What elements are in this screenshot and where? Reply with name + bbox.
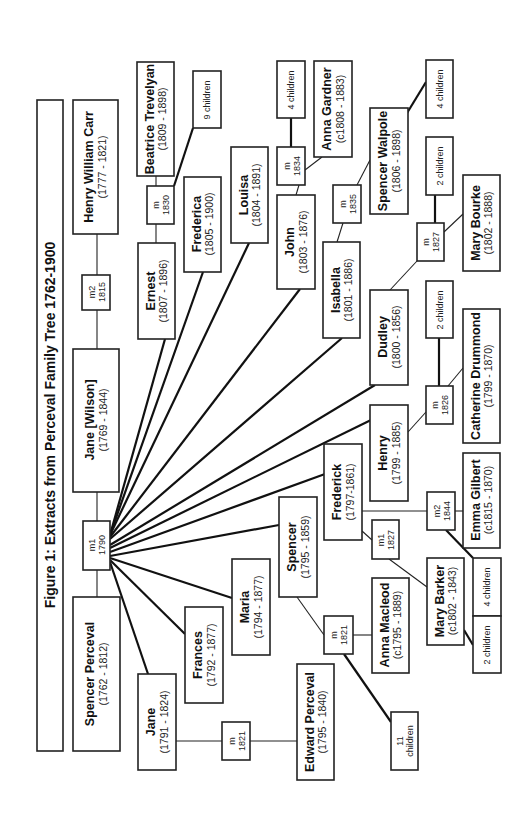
svg-text:m2: m2 <box>432 505 442 518</box>
person-spencer: Spencer (1795 - 1859) <box>279 497 317 597</box>
svg-text:(1795 - 1859): (1795 - 1859) <box>299 515 311 578</box>
svg-text:2 children: 2 children <box>435 146 445 185</box>
person-mary-bourke: Mary Bourke (1802 - 1888) <box>463 175 500 271</box>
person-frederica: Frederica (1805 - 1900) <box>184 177 221 272</box>
svg-text:(c1808 - 1883): (c1808 - 1883) <box>334 75 346 143</box>
figure-title: Figure 1: Extracts from Perceval Family … <box>37 100 63 751</box>
svg-text:(1799 - 1885): (1799 - 1885) <box>390 421 402 484</box>
svg-text:Jane [Wilson]: Jane [Wilson] <box>83 379 97 460</box>
person-catherine-drummond: Catherine Drummond (1799 - 1870) <box>463 309 500 443</box>
svg-text:Ernest: Ernest <box>144 271 158 311</box>
svg-text:(1794 - 1877): (1794 - 1877) <box>252 575 264 638</box>
svg-text:(1792 - 1877): (1792 - 1877) <box>205 623 217 686</box>
marriage-m1-1827: m1 1827 <box>372 520 399 559</box>
person-emma-gilbert: Emma Gilbert (c1815 - 1870) <box>463 453 500 548</box>
person-anna-macleod: Anna Macleod (c1795 - 1889) <box>372 578 409 673</box>
svg-text:children: children <box>405 725 415 757</box>
svg-text:Jane: Jane <box>144 708 158 737</box>
svg-text:m: m <box>430 401 440 409</box>
person-maria: Maria (1794 - 1877) <box>232 559 270 655</box>
svg-text:(1800 - 1856): (1800 - 1856) <box>390 305 402 368</box>
svg-text:Henry William Carr: Henry William Carr <box>82 111 96 223</box>
svg-text:Catherine Drummond: Catherine Drummond <box>469 312 483 440</box>
svg-text:(1769 - 1844): (1769 - 1844) <box>97 388 109 451</box>
children-henry-drummond: 2 children <box>426 281 453 338</box>
svg-text:(1803 - 1876): (1803 - 1876) <box>297 210 309 273</box>
svg-text:(c1815 - 1870): (c1815 - 1870) <box>482 466 494 534</box>
svg-text:(1805 - 1900): (1805 - 1900) <box>203 192 215 255</box>
person-anna-gardner: Anna Gardner (c1808 - 1883) <box>314 61 352 157</box>
svg-text:1844: 1844 <box>442 501 452 521</box>
svg-text:4 children: 4 children <box>482 567 492 606</box>
children-frederick-gilbert: 4 children <box>473 558 501 616</box>
marriage-m2-1844: m2 1844 <box>427 492 455 530</box>
person-frederick: Frederick (1797-1861) <box>324 444 362 540</box>
children-john-anna: 4 children <box>277 61 305 118</box>
marriage-m-1835: m 1835 <box>333 185 361 223</box>
svg-text:Spencer: Spencer <box>285 522 299 571</box>
person-jane: Jane (1791 - 1824) <box>138 674 176 770</box>
person-henry: Henry (1799 - 1885) <box>370 405 408 501</box>
svg-text:Figure 1: Extracts from Perce: Figure 1: Extracts from Perceval Family … <box>42 242 58 609</box>
marriage-m2-1815: m2 1815 <box>82 275 110 310</box>
svg-text:Emma Gilbert: Emma Gilbert <box>469 459 483 541</box>
person-mary-barker: Mary Barker (c1802 - 1843) <box>427 558 464 645</box>
person-spencer-perceval: Spencer Perceval (1762 - 1812) <box>73 597 120 751</box>
svg-text:Frederick: Frederick <box>330 464 344 520</box>
svg-text:m: m <box>421 238 431 246</box>
svg-text:(1802 - 1888): (1802 - 1888) <box>482 191 494 254</box>
svg-text:(1777 - 1821): (1777 - 1821) <box>96 135 108 198</box>
svg-text:Edward Perceval: Edward Perceval <box>303 672 317 772</box>
children-frederick-barker: 2 children <box>473 616 501 673</box>
svg-text:(1795 - 1840): (1795 - 1840) <box>316 690 328 753</box>
svg-text:Henry: Henry <box>376 435 390 470</box>
svg-text:m1: m1 <box>87 539 97 552</box>
marriage-m-1821-spencer: m 1821 <box>324 616 353 654</box>
svg-text:1826: 1826 <box>440 395 450 415</box>
svg-text:John: John <box>283 227 297 257</box>
svg-text:4 children: 4 children <box>435 69 445 108</box>
svg-text:Louisa: Louisa <box>237 174 251 215</box>
svg-text:(1804 - 1891): (1804 - 1891) <box>250 163 262 226</box>
svg-text:Mary Barker: Mary Barker <box>433 565 447 637</box>
svg-text:Spencer Perceval: Spencer Perceval <box>83 622 97 726</box>
svg-text:(1799 - 1870): (1799 - 1870) <box>482 344 494 407</box>
marriage-m-1827-dudley: m 1827 <box>417 223 444 261</box>
children-dudley-bourke: 2 children <box>426 137 453 195</box>
person-spencer-walpole: Spencer Walpole (1806 - 1898) <box>370 108 408 214</box>
svg-text:1821: 1821 <box>237 731 247 751</box>
marriage-m-1830: m 1830 <box>147 186 174 224</box>
person-frances: Frances (1792 - 1877) <box>185 607 223 703</box>
svg-text:(1809 - 1898): (1809 - 1898) <box>156 87 168 150</box>
svg-text:1830: 1830 <box>161 195 171 215</box>
person-louisa: Louisa (1804 - 1891) <box>231 147 268 243</box>
marriage-m-1834: m 1834 <box>277 147 305 185</box>
svg-text:1815: 1815 <box>97 282 107 302</box>
svg-text:Dudley: Dudley <box>376 316 390 358</box>
svg-text:1834: 1834 <box>292 156 302 176</box>
svg-text:4 children: 4 children <box>286 70 296 109</box>
svg-text:m: m <box>151 201 161 209</box>
svg-text:Mary Bourke: Mary Bourke <box>469 185 483 261</box>
person-jane-wilson: Jane [Wilson] (1769 - 1844) <box>73 349 119 492</box>
svg-text:(c1802 - 1843): (c1802 - 1843) <box>446 567 458 635</box>
svg-text:m1: m1 <box>376 534 386 547</box>
svg-text:(1801 - 1886): (1801 - 1886) <box>342 258 354 321</box>
svg-text:1827: 1827 <box>386 530 396 550</box>
svg-text:Maria: Maria <box>238 590 252 624</box>
svg-text:(1797-1861): (1797-1861) <box>344 463 356 520</box>
svg-text:2 children: 2 children <box>435 290 445 329</box>
family-tree-diagram: Figure 1: Extracts from Perceval Family … <box>0 0 526 823</box>
svg-text:(1807 - 1896): (1807 - 1896) <box>157 259 169 322</box>
svg-text:Spencer Walpole: Spencer Walpole <box>376 111 390 211</box>
person-edward-perceval: Edward Perceval (1795 - 1840) <box>297 664 334 780</box>
svg-text:m: m <box>329 631 339 639</box>
person-beatrice-trevelyan: Beatrice Trevelyan (1809 - 1898) <box>137 62 174 176</box>
marriage-m-1821-jane: m 1821 <box>222 722 250 760</box>
marriage-m1-1790: m1 1790 <box>83 521 110 570</box>
svg-text:9 children: 9 children <box>202 80 212 119</box>
svg-text:Anna Macleod: Anna Macleod <box>378 583 392 668</box>
svg-text:1835: 1835 <box>348 194 358 214</box>
svg-text:m: m <box>227 737 237 745</box>
svg-text:(1806 - 1898): (1806 - 1898) <box>390 129 402 192</box>
